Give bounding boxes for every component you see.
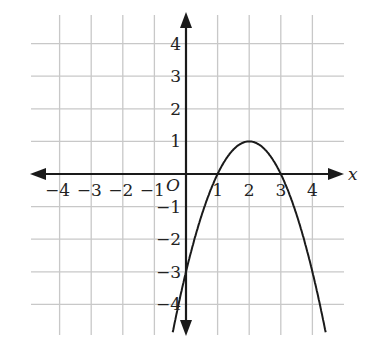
x-axis-label: x <box>348 164 358 184</box>
y-tick-label: 3 <box>170 66 181 86</box>
y-axis-up-arrow-icon <box>180 12 192 28</box>
y-tick-label: −3 <box>156 262 181 282</box>
coordinate-plane: −4−3−2−112344321−1−2−3−4Ox <box>0 0 369 344</box>
axes <box>30 12 344 336</box>
x-tick-label: −2 <box>108 180 133 200</box>
x-axis-left-arrow-icon <box>30 168 46 180</box>
x-tick-label: 1 <box>212 180 223 200</box>
x-tick-label: 2 <box>244 180 255 200</box>
y-tick-label: 1 <box>170 131 181 151</box>
y-tick-label: 4 <box>170 34 181 54</box>
x-tick-label: 3 <box>275 180 286 200</box>
x-tick-label: 4 <box>307 180 318 200</box>
origin-label: O <box>166 175 180 195</box>
y-axis-down-arrow-icon <box>180 320 192 336</box>
y-tick-label: −2 <box>156 229 181 249</box>
chart-container: −4−3−2−112344321−1−2−3−4Ox <box>0 0 369 344</box>
y-tick-label: 2 <box>170 99 181 119</box>
x-tick-label: −4 <box>45 180 70 200</box>
x-tick-label: −3 <box>77 180 102 200</box>
y-tick-label: −4 <box>156 294 181 314</box>
y-tick-label: −1 <box>156 197 181 217</box>
x-axis-right-arrow-icon <box>328 168 344 180</box>
